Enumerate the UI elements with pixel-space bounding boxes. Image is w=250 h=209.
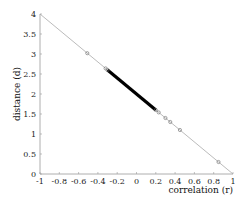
y-tick-label: 1.5 — [23, 110, 36, 119]
x-tick-label: 0.2 — [149, 177, 162, 186]
y-tick-label: 4 — [31, 10, 36, 19]
scatter-chart: -1-0.8-0.6-0.4-0.200.20.40.60.81 00.511.… — [0, 0, 250, 209]
x-tick-label: 0 — [134, 177, 139, 186]
x-tick-label: -1 — [36, 177, 44, 186]
x-tick-label: -0.2 — [109, 177, 124, 186]
y-tick-label: 2 — [31, 90, 36, 99]
y-tick-label: 0 — [31, 170, 36, 179]
y-tick-label: 0.5 — [23, 150, 36, 159]
y-tick-labels: 00.511.522.533.54 — [23, 10, 42, 179]
y-tick-label: 3 — [31, 50, 36, 59]
y-tick-label: 1 — [31, 130, 36, 139]
y-tick-label: 2.5 — [23, 70, 36, 79]
x-tick-label: -0.4 — [90, 177, 105, 186]
y-axis-label: distance (d) — [12, 67, 22, 121]
dense-point-cluster — [108, 70, 156, 110]
x-tick-label: -0.8 — [52, 177, 67, 186]
y-tick-label: 3.5 — [23, 30, 36, 39]
x-tick-label: -0.6 — [71, 177, 86, 186]
x-axis-label: correlation (r) — [168, 185, 233, 195]
